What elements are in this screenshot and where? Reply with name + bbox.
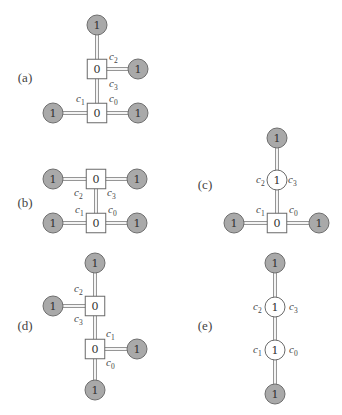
panel-b: 011011c2c3c1c0(b): [17, 169, 147, 233]
diagram-canvas: 101011c2c3c1c0(a) 011011c2c3c1c0(b) 1101…: [0, 0, 342, 415]
corner-label-c3: c3: [288, 173, 297, 188]
gray-circle-node: 1: [309, 213, 329, 233]
node-value: 1: [135, 63, 142, 76]
corner-label-c1: c1: [256, 203, 265, 218]
corner-label-c0: c0: [289, 343, 298, 358]
node-value: 1: [274, 174, 281, 187]
corner-label-c0: c0: [108, 203, 117, 218]
corner-label-c2: c2: [256, 173, 265, 188]
square-node: 0: [86, 169, 106, 189]
gray-circle-node: 1: [224, 213, 244, 233]
node-value: 1: [272, 257, 279, 270]
node-value: 0: [93, 217, 100, 230]
node-value: 1: [135, 107, 142, 120]
node-value: 1: [50, 300, 57, 313]
gray-circle-node: 1: [87, 15, 107, 35]
square-node: 0: [85, 339, 105, 359]
corner-label-c0: c0: [109, 92, 118, 107]
corner-label-c0: c0: [106, 356, 115, 371]
node-value: 1: [316, 217, 323, 230]
node-value: 1: [272, 388, 279, 401]
gray-circle-node: 1: [43, 296, 63, 316]
gray-circle-node: 1: [43, 103, 63, 123]
node-value: 0: [274, 217, 281, 230]
node-value: 0: [92, 343, 99, 356]
corner-label-c2: c2: [74, 186, 83, 201]
node-value: 0: [92, 300, 99, 313]
corner-label-c2: c2: [253, 300, 262, 315]
gray-circle-node: 1: [265, 253, 285, 273]
corner-label-c0: c0: [289, 203, 298, 218]
gray-circle-node: 1: [127, 213, 147, 233]
square-node: 0: [267, 213, 287, 233]
panel-label-a: (a): [18, 70, 32, 85]
square-node: 0: [85, 296, 105, 316]
gray-circle-node: 1: [127, 169, 147, 189]
gray-circle-node: 1: [85, 253, 105, 273]
gray-circle-node: 1: [265, 384, 285, 404]
corner-label-c3: c3: [74, 312, 83, 327]
node-value: 0: [93, 173, 100, 186]
gray-circle-node: 1: [128, 103, 148, 123]
corner-label-c1: c1: [106, 327, 115, 342]
white-circle-node: 1: [265, 340, 285, 360]
panel-label-b: (b): [17, 195, 32, 210]
node-value: 1: [92, 384, 99, 397]
square-node: 0: [86, 213, 106, 233]
node-value: 1: [50, 217, 57, 230]
panel-a: 101011c2c3c1c0(a): [18, 15, 148, 123]
node-value: 1: [272, 301, 279, 314]
node-value: 1: [50, 173, 57, 186]
corner-label-c2: c2: [109, 50, 118, 65]
panel-label-d: (d): [17, 318, 32, 333]
panel-e: 1111c2c3c1c0(e): [198, 253, 298, 404]
node-value: 1: [50, 107, 57, 120]
node-value: 1: [134, 217, 141, 230]
panel-label-c: (c): [198, 177, 212, 192]
gray-circle-node: 1: [43, 213, 63, 233]
corner-label-c1: c1: [75, 203, 84, 218]
node-value: 1: [134, 343, 141, 356]
gray-circle-node: 1: [127, 339, 147, 359]
white-circle-node: 1: [267, 170, 287, 190]
node-value: 1: [134, 173, 141, 186]
corner-label-c3: c3: [109, 77, 118, 92]
gray-circle-node: 1: [85, 380, 105, 400]
square-node: 0: [87, 103, 107, 123]
gray-circle-node: 1: [128, 59, 148, 79]
panel-label-e: (e): [198, 318, 212, 333]
corner-label-c1: c1: [76, 92, 85, 107]
node-value: 1: [231, 217, 238, 230]
panel-c: 11011c2c3c1c0(c): [198, 128, 329, 233]
node-value: 0: [94, 107, 101, 120]
panel-d: 101011c2c3c1c0(d): [17, 253, 147, 400]
node-value: 1: [92, 257, 99, 270]
node-value: 1: [94, 19, 101, 32]
corner-label-c1: c1: [253, 343, 262, 358]
node-value: 0: [94, 63, 101, 76]
node-value: 1: [274, 132, 281, 145]
white-circle-node: 1: [265, 297, 285, 317]
gray-circle-node: 1: [43, 169, 63, 189]
corner-label-c3: c3: [107, 186, 116, 201]
node-value: 1: [272, 344, 279, 357]
gray-circle-node: 1: [267, 128, 287, 148]
corner-label-c2: c2: [74, 282, 83, 297]
square-node: 0: [87, 59, 107, 79]
corner-label-c3: c3: [289, 300, 298, 315]
